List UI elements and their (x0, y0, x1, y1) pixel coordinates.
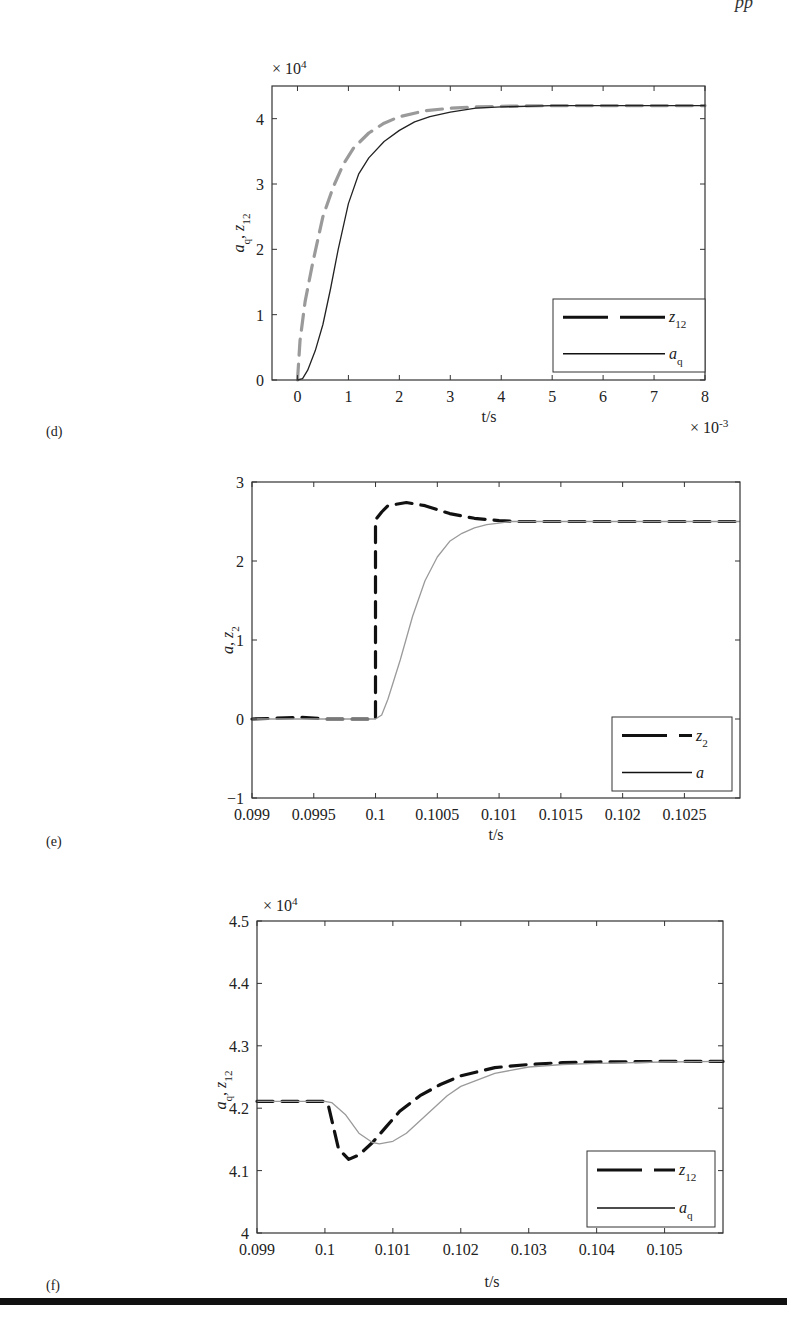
y-tick-label: 4 (241, 1225, 249, 1242)
chart-panel-d: 01234567801234t/saq , z12 × 104 × 10-3 (… (46, 58, 729, 440)
figure-panels: 01234567801234t/saq , z12 × 104 × 10-3 (… (0, 0, 787, 1323)
x-tick-label: 2 (395, 388, 403, 405)
panel-label: (d) (46, 424, 63, 440)
x-tick-label: 1 (344, 388, 352, 405)
y-axis-title: aq , z12 (230, 213, 252, 252)
y-tick-label: 0 (236, 711, 244, 728)
page-bottom-rule (0, 1298, 787, 1305)
x-tick-label: 0.099 (234, 806, 270, 823)
x-tick-label: 0.1005 (415, 806, 459, 823)
x-tick-label: 0.0995 (292, 806, 336, 823)
legend: z2 a (612, 717, 732, 791)
x-tick-label: 6 (599, 388, 607, 405)
x-tick-label: 0.102 (605, 806, 641, 823)
x-tick-label: 0.104 (579, 1241, 615, 1258)
chart-panel-e: 0.0990.09950.10.10050.1010.10150.1020.10… (46, 474, 740, 850)
y-tick-label: 4.2 (229, 1100, 249, 1117)
y-multiplier: × 104 (272, 58, 307, 77)
y-tick-label: 3 (256, 176, 264, 193)
x-axis-title: t/s (484, 1273, 499, 1290)
legend-label: a (696, 764, 704, 781)
series-line-z2 (252, 503, 740, 720)
panel-label: (f) (46, 1278, 60, 1294)
y-tick-label: 4.1 (229, 1163, 249, 1180)
x-tick-label: 0.101 (375, 1241, 411, 1258)
x-tick-label: 0 (293, 388, 301, 405)
y-multiplier: × 104 (263, 895, 298, 914)
x-tick-label: 0.102 (443, 1241, 479, 1258)
chart-panel-f: 0.0990.10.1010.1020.1030.1040.10544.14.2… (46, 895, 723, 1294)
x-tick-label: 3 (446, 388, 454, 405)
x-axis-title: t/s (481, 408, 496, 425)
x-tick-label: 7 (650, 388, 658, 405)
y-tick-label: 3 (236, 474, 244, 491)
y-tick-label: 4.3 (229, 1038, 249, 1055)
x-tick-label: 0.1 (366, 806, 386, 823)
x-tick-label: 0.099 (239, 1241, 275, 1258)
x-tick-label: 0.1015 (539, 806, 583, 823)
x-multiplier: × 10-3 (690, 417, 729, 436)
legend: z12 aq (587, 1151, 715, 1227)
y-tick-label: 2 (256, 241, 264, 258)
y-tick-label: 0 (256, 372, 264, 389)
y-tick-label: 4 (256, 111, 264, 128)
y-tick-label: 4.4 (229, 975, 249, 992)
x-tick-label: 5 (548, 388, 556, 405)
x-tick-label: 0.105 (647, 1241, 683, 1258)
series-line-a (252, 522, 740, 720)
y-tick-label: 1 (256, 307, 264, 324)
x-tick-label: 0.103 (511, 1241, 547, 1258)
legend: z12 aq (553, 299, 705, 372)
panel-label: (e) (46, 834, 62, 850)
series-line-aq (257, 1061, 723, 1143)
x-tick-label: 0.1 (315, 1241, 335, 1258)
x-tick-label: 8 (701, 388, 709, 405)
x-axis-title: t/s (488, 826, 503, 843)
x-tick-label: 4 (497, 388, 505, 405)
y-tick-label: 1 (236, 632, 244, 649)
y-tick-label: 2 (236, 553, 244, 570)
x-tick-label: 0.101 (481, 806, 517, 823)
y-tick-label: 4.5 (229, 913, 249, 930)
y-tick-label: −1 (227, 790, 244, 807)
series-line-z12 (257, 1061, 723, 1159)
x-tick-label: 0.1025 (662, 806, 706, 823)
